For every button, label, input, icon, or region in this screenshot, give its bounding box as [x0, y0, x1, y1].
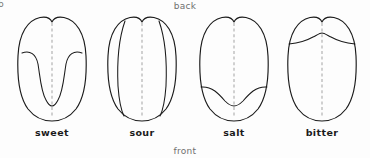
tongue-outline-bitter	[284, 16, 360, 122]
tongue-outline-sour	[104, 16, 180, 122]
orientation-label-front: front	[0, 146, 370, 156]
taste-label-bitter: bitter	[284, 127, 360, 138]
tongue-diagram-salt: salt	[196, 16, 272, 138]
tongue-taste-map-figure: b back sweet sour salt	[0, 0, 370, 158]
taste-label-sour: sour	[104, 127, 180, 138]
taste-label-salt: salt	[196, 127, 272, 138]
tongue-diagram-sour: sour	[104, 16, 180, 138]
tongue-diagram-bitter: bitter	[284, 16, 360, 138]
tongue-outline-sweet	[14, 16, 90, 122]
tongue-diagram-sweet: sweet	[14, 16, 90, 138]
tongue-outline-salt	[196, 16, 272, 122]
orientation-label-back: back	[0, 1, 370, 11]
taste-label-sweet: sweet	[14, 127, 90, 138]
